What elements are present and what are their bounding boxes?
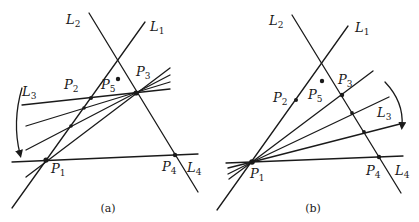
point-P1: [249, 159, 255, 165]
line-L1: [12, 22, 145, 208]
line-L1: [217, 26, 348, 210]
point-P2: [294, 98, 298, 102]
label-P5: P5: [100, 77, 116, 94]
label-L3: L3: [21, 84, 37, 101]
point-P1: [43, 157, 48, 162]
point-P3: [133, 90, 138, 95]
label-L2: L2: [65, 12, 80, 29]
panel-b: L2 L1 P3 P2 P5 L3 P1 P4 L4 (b): [217, 13, 410, 215]
label-P2: P2: [272, 90, 287, 107]
point-P2: [89, 96, 93, 100]
label-L1: L1: [354, 20, 369, 37]
point-P5: [320, 79, 324, 83]
panel-a: L2 L1 L3 P2 P5 P3 P1 P4 L4 (a): [12, 12, 202, 215]
point-intersection-a2: [69, 124, 73, 128]
point-intersection-b1: [350, 111, 354, 115]
label-P2: P2: [63, 77, 78, 94]
label-L2: L2: [268, 13, 283, 30]
diagram-canvas: L2 L1 L3 P2 P5 P3 P1 P4 L4 (a) L2: [0, 0, 419, 222]
label-L3: L3: [376, 105, 392, 122]
point-intersection-a1: [82, 106, 86, 110]
label-L1: L1: [149, 19, 164, 36]
point-P3: [340, 93, 344, 97]
line-L3-stub-2: [228, 162, 252, 174]
line-L3-position-3: [26, 75, 170, 150]
label-P5: P5: [307, 87, 323, 104]
point-P4: [173, 153, 177, 157]
line-L2: [89, 13, 198, 192]
label-P1: P1: [249, 166, 264, 183]
point-P5: [116, 77, 120, 81]
point-P4: [377, 155, 381, 159]
point-intersection-b2: [362, 130, 366, 134]
label-P3: P3: [337, 72, 353, 89]
caption-b: (b): [305, 202, 321, 215]
label-L4: L4: [186, 160, 202, 177]
label-L4: L4: [394, 163, 410, 180]
label-P1: P1: [50, 161, 65, 178]
label-P4: P4: [365, 163, 381, 180]
line-L3-position-2: [252, 97, 389, 162]
label-P3: P3: [135, 64, 151, 81]
caption-a: (a): [100, 202, 115, 215]
line-L2: [292, 15, 401, 193]
label-P4: P4: [161, 159, 177, 176]
